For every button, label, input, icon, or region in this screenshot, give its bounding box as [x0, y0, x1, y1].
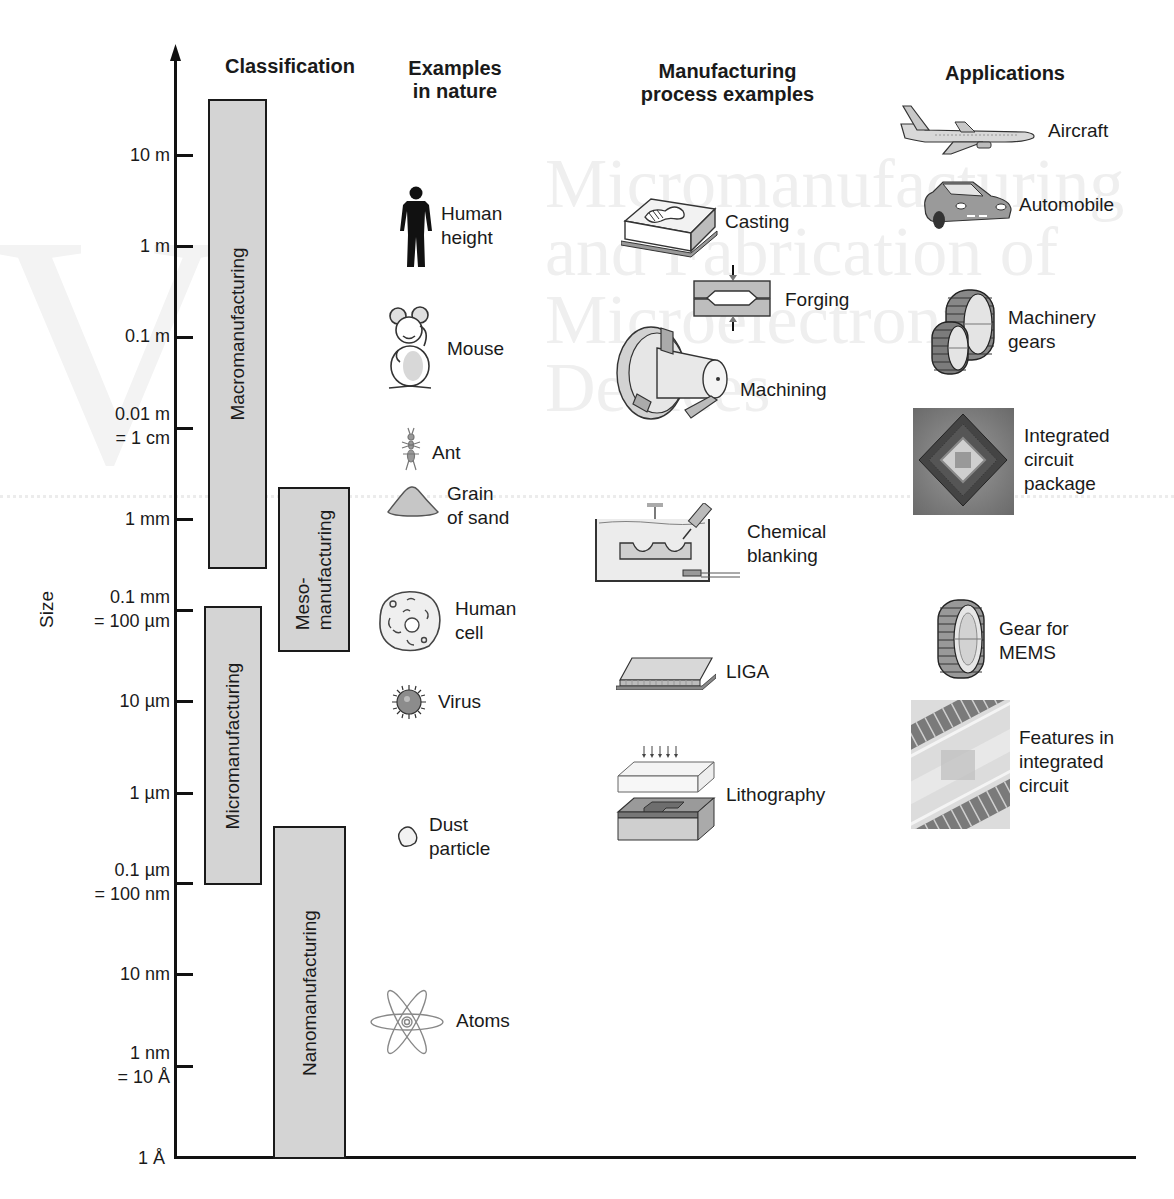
band-mesomanufacturing: Meso- manufacturing: [278, 487, 350, 652]
label-gear-for-mems: Gear forMEMS: [999, 617, 1069, 665]
tick-100nm: [176, 882, 193, 885]
label-mouse: Mouse: [447, 337, 504, 361]
label-machinery-gears: Machinerygears: [1008, 306, 1096, 354]
band-macromanufacturing: Macromanufacturing: [208, 99, 267, 569]
label-casting: Casting: [725, 210, 789, 234]
header-nature: Examples in nature: [385, 57, 525, 103]
tick-label-0-01m: 0.01 m: [20, 404, 170, 425]
label-aircraft: Aircraft: [1048, 119, 1108, 143]
tick-label-1cm: = 1 cm: [20, 428, 170, 449]
label-chemical-blanking: Chemicalblanking: [747, 520, 826, 568]
band-label-meso-line2: manufacturing: [314, 509, 336, 629]
label-human-height: Humanheight: [441, 202, 502, 250]
tick-10um: [176, 700, 193, 703]
label-machining: Machining: [740, 378, 827, 402]
tick-label-10m: 10 m: [20, 145, 170, 166]
tick-1cm: [176, 427, 193, 430]
tick-label-1m: 1 m: [20, 236, 170, 257]
ic-features-micrograph-icon: [911, 700, 1010, 829]
band-label-meso: Meso- manufacturing: [292, 509, 336, 629]
tick-label-1nm: 1 nm: [20, 1043, 170, 1064]
label-virus: Virus: [438, 690, 481, 714]
dust-particle-icon: [396, 825, 420, 847]
automobile-icon: [921, 178, 1013, 230]
label-liga: LIGA: [726, 660, 769, 684]
casting-mold-icon: [621, 193, 719, 259]
human-cell-icon: [377, 588, 443, 654]
band-label-micro: Micromanufacturing: [222, 662, 244, 829]
virus-icon: [391, 684, 427, 720]
tick-1um: [176, 792, 193, 795]
tick-label-1A: 1 Å: [15, 1148, 165, 1169]
y-axis-line: [174, 56, 177, 1159]
mouse-icon: [386, 306, 442, 390]
label-automobile: Automobile: [1019, 193, 1114, 217]
human-silhouette-icon: [396, 185, 436, 270]
tick-1mm: [176, 518, 193, 521]
label-grain-of-sand: Grainof sand: [447, 482, 509, 530]
tick-label-0-1um: 0.1 µm: [20, 860, 170, 881]
label-ic-features: Features inintegratedcircuit: [1019, 726, 1114, 798]
aircraft-icon: [895, 104, 1039, 156]
machining-lathe-icon: [611, 318, 737, 428]
header-nature-line2: in nature: [385, 80, 525, 103]
header-processes-line2: process examples: [610, 83, 845, 106]
label-atoms: Atoms: [456, 1009, 510, 1033]
tick-10nm: [176, 973, 193, 976]
machinery-gears-icon: [930, 286, 998, 376]
label-forging: Forging: [785, 288, 849, 312]
tick-label-100um: = 100 µm: [20, 611, 170, 632]
label-ant: Ant: [432, 441, 461, 465]
label-lithography: Lithography: [726, 783, 825, 807]
ic-package-icon: [913, 408, 1014, 515]
tick-label-100nm: = 100 nm: [20, 884, 170, 905]
tick-1nm: [176, 1065, 193, 1068]
atom-icon: [369, 982, 445, 1062]
tick-0-1m: [176, 336, 193, 339]
mems-gear-icon: [936, 598, 986, 680]
tick-1m: [176, 245, 193, 248]
tick-10m: [176, 154, 193, 157]
label-ic-package: Integratedcircuitpackage: [1024, 424, 1110, 496]
header-classification: Classification: [205, 55, 375, 78]
chemical-blanking-tank-icon: [595, 503, 740, 585]
label-dust-particle: Dustparticle: [429, 813, 490, 861]
band-nanomanufacturing: Nanomanufacturing: [273, 826, 346, 1159]
band-label-macro: Macromanufacturing: [227, 247, 249, 420]
lithography-layers-icon: [614, 746, 716, 842]
sand-grain-icon: [386, 482, 440, 518]
band-micromanufacturing: Micromanufacturing: [204, 606, 262, 885]
header-nature-line1: Examples: [385, 57, 525, 80]
tick-label-0-1mm: 0.1 mm: [20, 587, 170, 608]
tick-label-1mm: 1 mm: [20, 509, 170, 530]
band-label-nano: Nanomanufacturing: [299, 910, 321, 1076]
header-processes-line1: Manufacturing: [610, 60, 845, 83]
tick-label-10A: = 10 Å: [20, 1067, 170, 1088]
header-processes: Manufacturing process examples: [610, 60, 845, 106]
ant-icon: [400, 426, 422, 472]
header-applications: Applications: [920, 62, 1090, 85]
band-label-meso-line1: Meso-: [292, 509, 314, 629]
tick-label-0-1m: 0.1 m: [20, 326, 170, 347]
tick-label-10um: 10 µm: [20, 691, 170, 712]
tick-100um: [176, 609, 193, 612]
y-axis-arrow-icon: [167, 44, 184, 62]
label-human-cell: Humancell: [455, 597, 516, 645]
tick-label-1um: 1 µm: [20, 783, 170, 804]
liga-structure-icon: [616, 654, 716, 690]
tick-label-10nm: 10 nm: [20, 964, 170, 985]
bleed-through-letter: V: [0, 160, 228, 539]
